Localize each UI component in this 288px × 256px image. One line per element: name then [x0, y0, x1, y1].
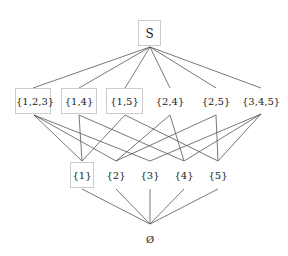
node-set-24: {2,4}: [152, 88, 188, 114]
edge-123-3: [34, 115, 150, 161]
edge-14-1: [79, 115, 82, 161]
edge-24-2: [116, 115, 170, 161]
node-set-1: {1}: [70, 162, 94, 188]
node-set-3: {3}: [138, 162, 162, 188]
edge-345-5: [218, 114, 261, 161]
edge-2-empty: [116, 189, 150, 224]
edge-S-15: [125, 47, 150, 88]
node-set-15: {1,5}: [106, 88, 143, 114]
node-set-123: {1,2,3}: [15, 88, 51, 114]
edge-S-14: [79, 47, 150, 88]
edge-5-empty: [150, 189, 218, 224]
node-empty-set: Ø: [138, 226, 162, 252]
hasse-diagram: S {1,2,3} {1,4} {1,5} {2,4} {2,5} {3,4,5…: [0, 0, 288, 256]
node-set-4: {4}: [172, 162, 196, 188]
node-S: S: [138, 20, 161, 46]
node-set-2: {2}: [104, 162, 128, 188]
edge-1-empty: [82, 189, 150, 224]
edge-4-empty: [150, 189, 184, 224]
node-set-345: {3,4,5}: [241, 88, 281, 114]
node-set-14: {1,4}: [61, 88, 97, 114]
edge-S-123: [33, 47, 150, 88]
edge-25-5: [216, 115, 218, 161]
edge-345-4: [184, 114, 261, 161]
node-set-5: {5}: [206, 162, 230, 188]
node-set-25: {2,5}: [198, 88, 234, 114]
